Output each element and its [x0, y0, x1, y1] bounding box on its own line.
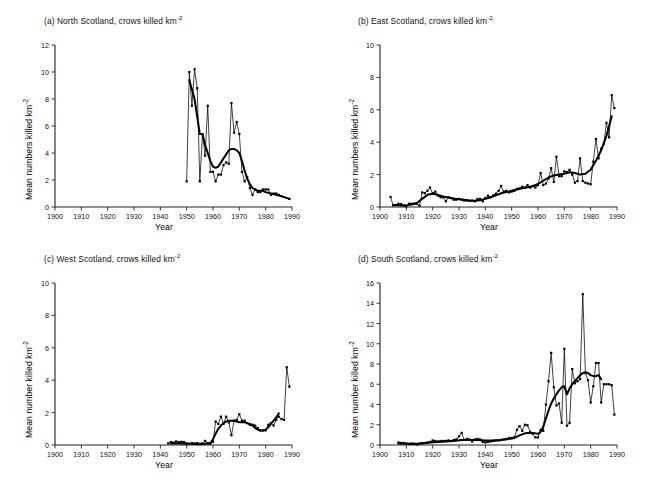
data-point-d-8 [418, 442, 420, 444]
data-point-d-62 [561, 422, 563, 424]
x-tick-label-d-9: 1990 [609, 450, 625, 459]
axis-spine-d [380, 283, 617, 445]
data-point-d-76 [597, 362, 599, 364]
data-point-d-2 [403, 442, 405, 444]
data-point-d-75 [595, 362, 597, 364]
data-point-d-45 [516, 429, 518, 431]
data-point-d-38 [497, 439, 499, 441]
data-point-d-11 [426, 441, 428, 443]
data-point-d-51 [532, 433, 534, 435]
data-point-d-15 [437, 440, 439, 442]
data-point-d-52 [534, 436, 536, 438]
data-point-d-57 [547, 380, 549, 382]
data-point-d-5 [411, 442, 413, 444]
data-point-d-46 [518, 425, 520, 427]
plot-area-d [0, 0, 650, 485]
data-point-d-32 [482, 441, 484, 443]
data-point-d-13 [432, 439, 434, 441]
x-tick-label-d-0: 1900 [372, 450, 388, 459]
y-tick-label-d-7: 14 [356, 299, 374, 308]
data-point-d-42 [508, 437, 510, 439]
data-point-d-40 [503, 438, 505, 440]
data-point-d-55 [542, 430, 544, 432]
data-point-d-39 [500, 439, 502, 441]
panel-label-d: (d) [358, 254, 371, 264]
data-point-d-25 [463, 439, 465, 441]
x-tick-label-d-6: 1960 [530, 450, 546, 459]
data-point-d-19 [447, 439, 449, 441]
data-point-d-80 [608, 383, 610, 385]
data-point-d-48 [524, 424, 526, 426]
x-axis-label-d: Year [480, 460, 498, 470]
panel-d: (d) South Scotland, crows killed km-2Mea… [0, 0, 650, 485]
data-point-d-24 [461, 432, 463, 434]
data-point-d-81 [611, 384, 613, 386]
data-point-d-9 [421, 442, 423, 444]
y-axis-label-exponent-d: -2 [348, 341, 355, 347]
data-point-d-61 [558, 402, 560, 404]
data-point-d-41 [505, 438, 507, 440]
data-point-d-74 [592, 385, 594, 387]
data-point-d-66 [571, 368, 573, 370]
data-point-d-49 [526, 424, 528, 426]
data-point-d-54 [540, 429, 542, 431]
data-point-d-56 [545, 403, 547, 405]
y-tick-label-d-4: 8 [356, 360, 374, 369]
data-point-d-68 [576, 380, 578, 382]
data-point-d-60 [555, 404, 557, 406]
data-point-d-47 [521, 430, 523, 432]
y-tick-label-d-3: 6 [356, 380, 374, 389]
data-point-d-34 [487, 441, 489, 443]
data-point-d-67 [574, 382, 576, 384]
data-point-d-70 [582, 293, 584, 295]
data-point-d-20 [450, 440, 452, 442]
y-tick-label-d-6: 12 [356, 319, 374, 328]
data-point-d-79 [605, 383, 607, 385]
data-point-d-6 [413, 443, 415, 445]
data-point-d-12 [429, 441, 431, 443]
y-tick-label-d-0: 0 [356, 441, 374, 450]
data-point-d-43 [511, 437, 513, 439]
data-point-d-18 [445, 440, 447, 442]
data-point-d-73 [590, 401, 592, 403]
y-tick-label-d-5: 10 [356, 339, 374, 348]
data-point-d-64 [566, 425, 568, 427]
panel-title-exponent-d: -2 [492, 252, 498, 259]
data-point-d-58 [550, 352, 552, 354]
data-point-d-23 [458, 435, 460, 437]
data-point-d-69 [579, 378, 581, 380]
y-tick-label-d-1: 2 [356, 420, 374, 429]
data-point-d-63 [563, 348, 565, 350]
series-d-annual [398, 294, 614, 444]
x-tick-label-d-4: 1940 [477, 450, 493, 459]
data-point-d-1 [400, 442, 402, 444]
data-point-d-53 [537, 436, 539, 438]
data-point-d-37 [495, 439, 497, 441]
figure-root: (a) North Scotland, crows killed km-2Mea… [0, 0, 650, 485]
y-tick-label-d-8: 16 [356, 279, 374, 288]
data-point-d-28 [471, 440, 473, 442]
data-point-d-3 [405, 442, 407, 444]
data-point-d-17 [442, 440, 444, 442]
y-tick-label-d-2: 4 [356, 400, 374, 409]
data-point-d-4 [408, 443, 410, 445]
panel-title-text-d: South Scotland, crows killed km [371, 254, 492, 264]
x-tick-label-d-7: 1970 [556, 450, 572, 459]
data-point-d-21 [453, 439, 455, 441]
data-point-d-27 [468, 438, 470, 440]
data-point-d-77 [600, 401, 602, 403]
data-point-d-0 [397, 441, 399, 443]
data-point-d-82 [613, 414, 615, 416]
data-point-d-50 [529, 431, 531, 433]
data-point-d-16 [439, 440, 441, 442]
data-point-d-78 [603, 383, 605, 385]
panel-title-d: (d) South Scotland, crows killed km-2 [358, 252, 498, 264]
data-point-d-44 [513, 436, 515, 438]
data-point-d-31 [479, 438, 481, 440]
data-point-d-7 [416, 443, 418, 445]
data-point-d-65 [569, 422, 571, 424]
data-point-d-36 [492, 440, 494, 442]
x-tick-label-d-2: 1920 [425, 450, 441, 459]
x-tick-label-d-3: 1930 [451, 450, 467, 459]
x-tick-label-d-8: 1980 [583, 450, 599, 459]
